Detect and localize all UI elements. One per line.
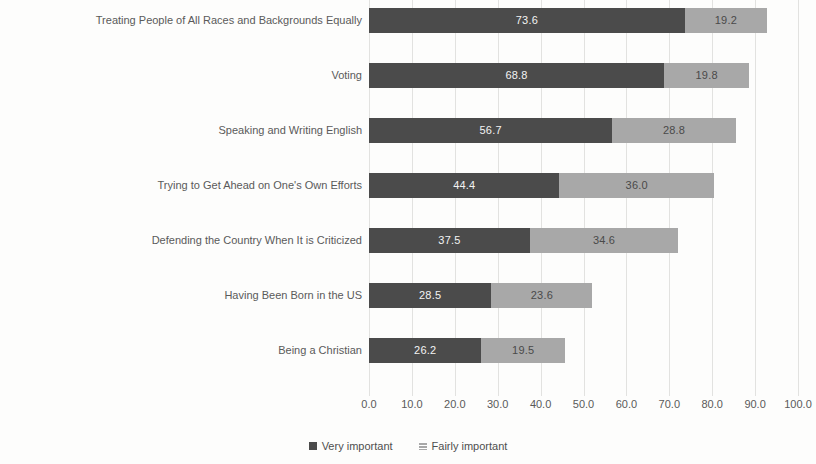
category-label: Treating People of All Races and Backgro… bbox=[0, 8, 362, 33]
category-label: Being a Christian bbox=[0, 338, 362, 363]
x-tick-label: 60.0 bbox=[616, 398, 637, 410]
bar-value-label: 36.0 bbox=[626, 180, 648, 191]
bar-value-label: 28.8 bbox=[663, 125, 685, 136]
bar-value-label: 19.5 bbox=[512, 345, 534, 356]
category-label: Speaking and Writing English bbox=[0, 118, 362, 143]
stacked-bar-chart: Treating People of All Races and Backgro… bbox=[0, 0, 816, 464]
bar-value-label: 19.8 bbox=[696, 70, 718, 81]
gridline-30.0 bbox=[498, 0, 499, 396]
stacked-bar: 44.436.0 bbox=[369, 173, 714, 198]
bar-value-label: 26.2 bbox=[414, 345, 436, 356]
legend-item: Very important bbox=[309, 440, 393, 452]
stacked-bar: 37.534.6 bbox=[369, 228, 678, 253]
gridline-100.0 bbox=[798, 0, 799, 396]
gridline-90.0 bbox=[755, 0, 756, 396]
bar-value-label: 37.5 bbox=[438, 235, 460, 246]
stacked-bar: 28.523.6 bbox=[369, 283, 593, 308]
bar-value-label: 23.6 bbox=[531, 290, 553, 301]
gridline-20.0 bbox=[455, 0, 456, 396]
bar-segment-fairly-important: 19.5 bbox=[481, 338, 565, 363]
x-tick-label: 90.0 bbox=[744, 398, 765, 410]
bar-value-label: 56.7 bbox=[480, 125, 502, 136]
gridline-10.0 bbox=[412, 0, 413, 396]
legend-swatch-icon bbox=[309, 442, 317, 450]
x-tick-label: 50.0 bbox=[573, 398, 594, 410]
x-tick-label: 100.0 bbox=[784, 398, 812, 410]
gridline-70.0 bbox=[669, 0, 670, 396]
bar-value-label: 19.2 bbox=[715, 15, 737, 26]
bar-segment-very-important: 56.7 bbox=[369, 118, 612, 143]
legend-label: Fairly important bbox=[432, 440, 508, 452]
bar-value-label: 68.8 bbox=[505, 70, 527, 81]
bar-segment-very-important: 26.2 bbox=[369, 338, 481, 363]
stacked-bar: 68.819.8 bbox=[369, 63, 749, 88]
bar-segment-very-important: 68.8 bbox=[369, 63, 664, 88]
bar-segment-fairly-important: 36.0 bbox=[559, 173, 713, 198]
gridline-50.0 bbox=[584, 0, 585, 396]
category-label: Voting bbox=[0, 63, 362, 88]
bar-segment-fairly-important: 23.6 bbox=[491, 283, 592, 308]
gridline-80.0 bbox=[712, 0, 713, 396]
gridline-40.0 bbox=[541, 0, 542, 396]
bar-segment-fairly-important: 19.8 bbox=[664, 63, 749, 88]
legend-swatch-icon bbox=[419, 442, 427, 450]
stacked-bar: 56.728.8 bbox=[369, 118, 736, 143]
x-tick-label: 10.0 bbox=[401, 398, 422, 410]
stacked-bar: 73.619.2 bbox=[369, 8, 767, 33]
bar-segment-very-important: 73.6 bbox=[369, 8, 685, 33]
x-tick-label: 70.0 bbox=[659, 398, 680, 410]
bar-value-label: 28.5 bbox=[419, 290, 441, 301]
bar-segment-very-important: 28.5 bbox=[369, 283, 491, 308]
category-label: Defending the Country When It is Critici… bbox=[0, 228, 362, 253]
x-axis: 0.010.020.030.040.050.060.070.080.090.01… bbox=[369, 398, 798, 416]
x-tick-label: 20.0 bbox=[444, 398, 465, 410]
x-tick-label: 0.0 bbox=[361, 398, 376, 410]
chart-legend: Very importantFairly important bbox=[0, 440, 816, 452]
plot-area bbox=[369, 0, 798, 396]
x-tick-label: 80.0 bbox=[701, 398, 722, 410]
bar-segment-fairly-important: 34.6 bbox=[530, 228, 678, 253]
x-tick-label: 40.0 bbox=[530, 398, 551, 410]
bar-value-label: 34.6 bbox=[593, 235, 615, 246]
bar-value-label: 44.4 bbox=[453, 180, 475, 191]
stacked-bar: 26.219.5 bbox=[369, 338, 565, 363]
category-label: Having Been Born in the US bbox=[0, 283, 362, 308]
bar-segment-fairly-important: 28.8 bbox=[612, 118, 736, 143]
x-tick-label: 30.0 bbox=[487, 398, 508, 410]
bar-segment-very-important: 44.4 bbox=[369, 173, 559, 198]
bar-segment-fairly-important: 19.2 bbox=[685, 8, 767, 33]
gridline-0.0 bbox=[369, 0, 370, 396]
bar-segment-very-important: 37.5 bbox=[369, 228, 530, 253]
gridline-60.0 bbox=[626, 0, 627, 396]
bar-value-label: 73.6 bbox=[516, 15, 538, 26]
legend-label: Very important bbox=[322, 440, 393, 452]
legend-item: Fairly important bbox=[419, 440, 508, 452]
category-label: Trying to Get Ahead on One's Own Efforts bbox=[0, 173, 362, 198]
